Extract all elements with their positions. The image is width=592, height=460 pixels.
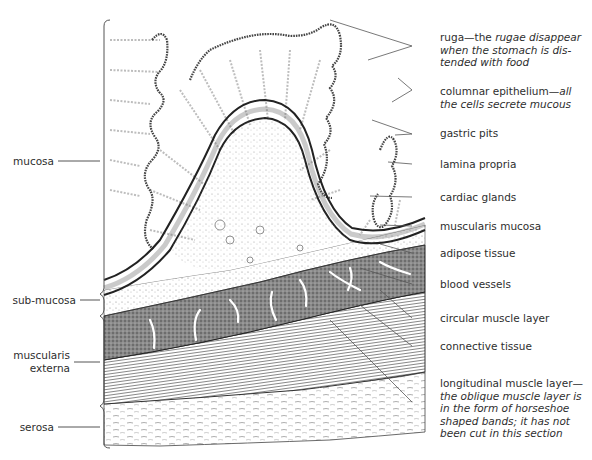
label-gastric-pits: gastric pits — [440, 127, 498, 140]
label-mucosa: mucosa — [10, 155, 54, 168]
label-longitudinal-muscle-layer: longitudinal muscle layer— the oblique m… — [440, 377, 583, 440]
label-serosa: serosa — [4, 421, 54, 434]
label-muscularis-externa: muscularis externa — [4, 349, 70, 374]
longitudinal-note-a: the oblique muscle layer is — [440, 390, 583, 403]
label-circular-muscle-layer: circular muscle layer — [440, 312, 549, 325]
label-muscularis-line1: muscularis — [4, 349, 70, 362]
columnar-term: columnar epithelium— — [440, 85, 559, 97]
label-lamina-propria: lamina propria — [440, 158, 516, 171]
label-adipose-tissue: adipose tissue — [440, 247, 515, 260]
longitudinal-note-c: shaped bands; it has not — [440, 415, 583, 428]
label-connective-tissue: connective tissue — [440, 340, 532, 353]
columnar-note-a: all — [559, 85, 571, 97]
ruga-note-a: rugae disappear — [495, 31, 581, 43]
label-columnar-epithelium: columnar epithelium—all the cells secret… — [440, 85, 572, 110]
label-cardiac-glands: cardiac glands — [440, 191, 516, 204]
longitudinal-term: longitudinal muscle layer— — [440, 377, 583, 390]
label-sub-mucosa: sub-mucosa — [4, 294, 76, 307]
longitudinal-note-b: in the form of horseshoe — [440, 402, 583, 415]
ruga-term: ruga—the — [440, 31, 495, 43]
label-muscularis-line2: externa — [4, 362, 70, 375]
label-ruga: ruga—the rugae disappear when the stomac… — [440, 31, 581, 69]
ruga-note-c: tended with food — [440, 56, 581, 69]
label-blood-vessels: blood vessels — [440, 278, 511, 291]
label-muscularis-mucosa: muscularis mucosa — [440, 220, 541, 233]
longitudinal-note-d: been cut in this section — [440, 427, 583, 440]
ruga-note-b: when the stomach is dis- — [440, 44, 581, 57]
columnar-note-b: the cells secrete mucous — [440, 98, 572, 111]
stomach-wall-diagram: mucosa sub-mucosa muscularis externa ser… — [0, 0, 592, 460]
